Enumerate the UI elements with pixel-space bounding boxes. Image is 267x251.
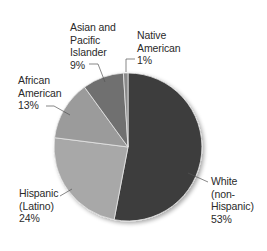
label-line: Pacific: [70, 34, 116, 47]
label-line: Asian and: [70, 21, 116, 34]
label-line: American: [137, 42, 181, 55]
label-value: 24%: [19, 212, 58, 225]
label-line: African: [18, 74, 62, 87]
label-line: Hispanic: [19, 187, 58, 200]
label-line: White: [211, 175, 254, 188]
label-african-american: African American 13%: [18, 74, 62, 112]
label-line: Islander: [70, 46, 116, 59]
label-native-american: Native American 1%: [137, 29, 181, 67]
label-white: White (non- Hispanic) 53%: [211, 175, 254, 225]
label-value: 13%: [18, 99, 62, 112]
label-line: Native: [137, 29, 181, 42]
label-asian-pacific-islander: Asian and Pacific Islander 9%: [70, 21, 116, 71]
label-line: Hispanic): [211, 200, 254, 213]
label-hispanic: Hispanic (Latino) 24%: [19, 187, 58, 225]
label-line: (non-: [211, 188, 254, 201]
label-line: (Latino): [19, 200, 58, 213]
label-value: 1%: [137, 54, 181, 67]
label-value: 53%: [211, 213, 254, 226]
leader-native: [126, 59, 135, 72]
pie-slices: [54, 73, 202, 221]
label-line: American: [18, 87, 62, 100]
label-value: 9%: [70, 59, 116, 72]
